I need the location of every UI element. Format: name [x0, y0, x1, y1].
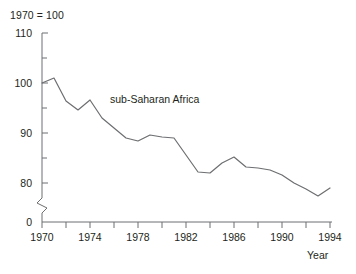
axis-lines [37, 33, 332, 222]
x-tick-label-1994: 1994 [310, 231, 350, 243]
x-tick-label-1970: 1970 [22, 231, 62, 243]
y-tick-label-110: 110 [6, 27, 32, 39]
x-tick-label-1978: 1978 [118, 231, 158, 243]
x-tick-label-1986: 1986 [214, 231, 254, 243]
x-axis-title: Year [307, 249, 328, 261]
x-tick-label-1982: 1982 [166, 231, 206, 243]
series-inline-label: sub-Saharan Africa [110, 93, 199, 105]
y-tick-label-0: 0 [6, 216, 32, 228]
y-axis-minor-ticks [42, 58, 47, 158]
y-tick-label-100: 100 [6, 77, 32, 89]
x-axis-ticks [42, 222, 330, 228]
y-axis-break-mark [37, 198, 47, 222]
y-tick-label-80: 80 [6, 177, 32, 189]
chart-container: 1970 = 100 [0, 0, 356, 274]
x-tick-label-1974: 1974 [70, 231, 110, 243]
y-tick-label-90: 90 [6, 127, 32, 139]
x-tick-label-1990: 1990 [262, 231, 302, 243]
